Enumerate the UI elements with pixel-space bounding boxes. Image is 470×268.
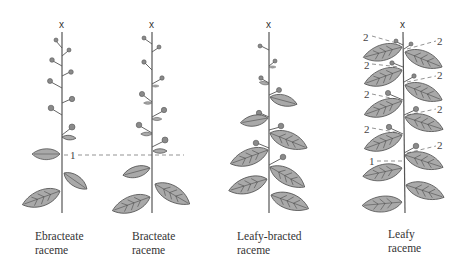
panel-leafy: x 2 2 2 2 2 2 2 2 [361,19,446,214]
boundary-label: 1 [369,155,375,167]
boundary-label: 1 [70,149,76,161]
marker-2: 2 [437,103,443,115]
caption-line: raceme [388,241,421,255]
caption-line: Bracteate [132,229,175,243]
caption-line: raceme [35,243,84,257]
caption-line: Leafy [388,227,421,241]
marker-2: 2 [437,69,443,81]
marker-2: 2 [364,123,370,135]
caption-line: raceme [132,243,175,257]
caption-line: raceme [237,243,301,257]
apex-marker: x [59,19,64,30]
caption-leafy-bracted: Leafy-bracted raceme [237,229,301,257]
caption-line: Ebracteate [35,229,84,243]
panel-bracteate: x [110,19,194,218]
caption-ebracteate: Ebracteate raceme [35,229,84,257]
marker-2: 2 [363,31,369,43]
apex-marker: x [266,19,271,30]
marker-2: 2 [437,139,443,151]
panel-ebracteate: x [20,19,90,213]
panel-leafy-bracted: x [227,19,312,216]
marker-2: 2 [364,59,370,71]
apex-marker: x [400,19,405,30]
apex-marker: x [149,19,154,30]
caption-leafy: Leafy raceme [388,227,421,255]
caption-bracteate: Bracteate raceme [132,229,175,257]
marker-2: 2 [437,35,443,47]
marker-2: 2 [364,88,370,100]
caption-line: Leafy-bracted [237,229,301,243]
